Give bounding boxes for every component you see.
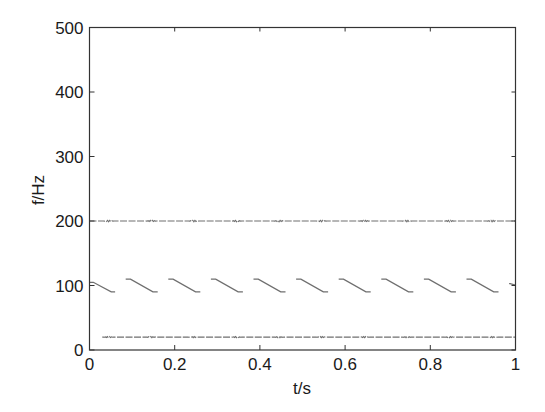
trace-sawtooth-segment bbox=[509, 284, 515, 285]
x-axis-label: t/s bbox=[293, 379, 311, 398]
trace-sawtooth-segment bbox=[90, 282, 116, 292]
trace-sawtooth-segment bbox=[254, 279, 286, 292]
y-tick-label: 400 bbox=[55, 83, 83, 102]
trace-sawtooth-segment bbox=[424, 279, 456, 292]
x-tick-label: 0.2 bbox=[163, 355, 187, 374]
trace-constant bbox=[102, 337, 515, 338]
y-tick-label: 0 bbox=[74, 341, 83, 360]
trace-sawtooth-segment bbox=[168, 279, 200, 292]
x-tick-label: 0.6 bbox=[333, 355, 357, 374]
trace-sawtooth-segment bbox=[211, 279, 243, 292]
x-tick-label: 0.4 bbox=[248, 355, 272, 374]
y-tick-label: 500 bbox=[55, 19, 83, 38]
trace-sawtooth-segment bbox=[467, 279, 499, 292]
plot-frame bbox=[90, 28, 516, 351]
trace-sawtooth-segment bbox=[381, 279, 413, 292]
x-tick-label: 0 bbox=[85, 355, 94, 374]
trace-sawtooth-segment bbox=[339, 279, 371, 292]
trace-constant bbox=[90, 220, 516, 221]
y-tick-label: 100 bbox=[55, 277, 83, 296]
frequency-time-chart: 00.20.40.60.81 0100200300400500 t/s f/Hz bbox=[0, 0, 545, 412]
x-tick-label: 0.8 bbox=[418, 355, 442, 374]
x-axis-ticks: 00.20.40.60.81 bbox=[85, 28, 520, 375]
trace-sawtooth-segment bbox=[296, 279, 328, 292]
y-tick-label: 200 bbox=[55, 212, 83, 231]
y-axis-ticks: 0100200300400500 bbox=[55, 19, 515, 361]
y-axis-label: f/Hz bbox=[29, 175, 48, 205]
y-tick-label: 300 bbox=[55, 148, 83, 167]
x-tick-label: 1 bbox=[511, 355, 520, 374]
plot-traces bbox=[90, 220, 516, 337]
trace-sawtooth-segment bbox=[126, 279, 158, 292]
